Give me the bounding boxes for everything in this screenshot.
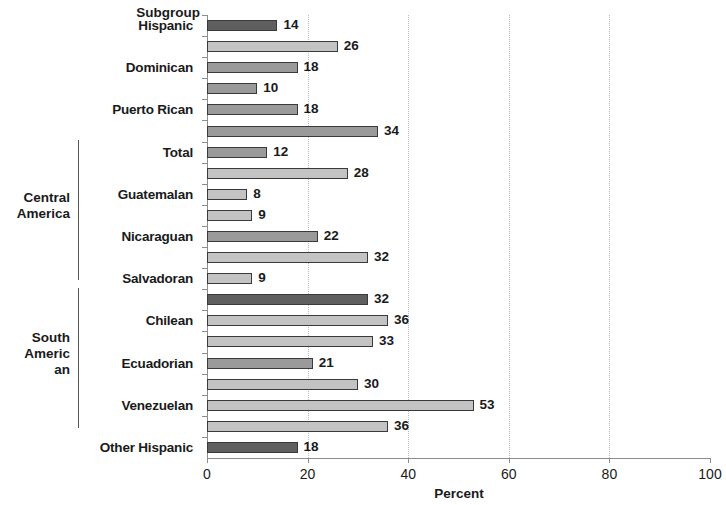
y-axis-tick [202,226,207,227]
bar [207,83,257,94]
x-axis-line [207,458,711,459]
y-axis-tick [202,184,207,185]
y-axis-tick [202,289,207,290]
y-axis-tick [202,268,207,269]
bar-value-label: 32 [374,293,389,305]
y-axis-tick [202,416,207,417]
category-label: Venezuelan [0,398,200,413]
bar [207,273,252,284]
bar-value-label: 14 [283,19,298,31]
y-axis-tick [202,36,207,37]
bar [207,62,298,73]
x-axis-title: Percent [207,486,711,501]
bar-value-label: 18 [304,103,319,115]
bar [207,168,348,179]
x-axis-tick-label: 100 [690,466,726,482]
bar [207,210,252,221]
bar-value-label: 30 [364,378,379,390]
x-axis-tick [408,458,409,463]
bar-value-label: 36 [394,314,409,326]
category-label: Hispanic [0,18,200,33]
bar [207,41,338,52]
y-axis-tick [202,163,207,164]
x-axis-tick [207,458,208,463]
bar-value-label: 22 [324,230,339,242]
bar [207,20,277,31]
bar [207,421,388,432]
category-label: Puerto Rican [0,102,200,117]
y-axis-tick [202,331,207,332]
category-label: Salvadoran [0,271,200,286]
gridline [509,15,510,458]
category-label: Other Hispanic [0,440,200,455]
group-label-central-america: Central America [0,190,70,222]
bar-value-label: 36 [394,420,409,432]
bar-value-label: 28 [354,167,369,179]
x-axis-tick-label: 60 [489,466,529,482]
bar-value-label: 12 [273,146,288,158]
bar [207,379,358,390]
bar [207,252,368,263]
y-axis-tick [202,437,207,438]
bar [207,442,298,453]
y-axis-tick [202,374,207,375]
gridline [609,15,610,458]
x-axis-tick [609,458,610,463]
y-axis-tick [202,99,207,100]
x-axis-tick [710,458,711,463]
y-axis-tick [202,310,207,311]
bar-value-label: 21 [319,357,334,369]
x-axis-tick-label: 80 [589,466,629,482]
bar [207,400,474,411]
bar-value-label: 9 [258,209,266,221]
y-axis-tick [202,120,207,121]
x-axis-tick [308,458,309,463]
category-label: Dominican [0,60,200,75]
x-axis-tick-label: 40 [388,466,428,482]
bar-value-label: 53 [480,399,495,411]
bar-value-label: 18 [304,61,319,73]
category-label: Nicaraguan [0,229,200,244]
y-axis-tick [202,15,207,16]
bar-value-label: 10 [263,82,278,94]
y-axis-tick [202,395,207,396]
gridline [408,15,409,458]
y-axis-tick [202,57,207,58]
category-label: Total [0,145,200,160]
y-axis-tick [202,247,207,248]
y-axis-tick [202,142,207,143]
category-label-column: HispanicDominicanPuerto RicanTotalGuatem… [0,0,200,505]
bar-value-label: 9 [258,272,266,284]
y-axis-tick [202,205,207,206]
bar [207,231,318,242]
bar-value-label: 34 [384,125,399,137]
bar [207,336,373,347]
bar-value-label: 8 [253,188,261,200]
bar [207,147,267,158]
x-axis-tick-label: 0 [187,466,227,482]
bar-value-label: 32 [374,251,389,263]
group-label-south-american: South Americ an [0,330,70,378]
bar [207,315,388,326]
x-axis-tick-label: 20 [288,466,328,482]
category-label: Chilean [0,313,200,328]
bar-value-label: 33 [379,335,394,347]
bar-value-label: 18 [304,441,319,453]
bar [207,104,298,115]
bar-value-label: 26 [344,40,359,52]
y-axis-tick [202,353,207,354]
group-bracket-central-america [78,140,79,280]
x-axis-tick [509,458,510,463]
bar [207,189,247,200]
plot-area: 142618101834122889223293236332130533618 [207,15,710,458]
bar [207,294,368,305]
bar [207,126,378,137]
y-axis-tick [202,78,207,79]
group-bracket-south-american [78,288,79,428]
bar [207,358,313,369]
